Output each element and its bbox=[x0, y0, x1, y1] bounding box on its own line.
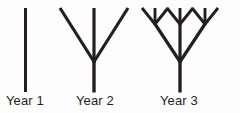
stage-labels-row: Year 1 Year 2 Year 3 bbox=[0, 93, 240, 113]
year-3-branch-left bbox=[155, 24, 181, 63]
year-3-tree bbox=[142, 8, 218, 93]
year-3-twig-center-a bbox=[167, 8, 180, 25]
year-3-branch-right bbox=[180, 24, 206, 63]
year-3-twig-right-c bbox=[205, 8, 218, 25]
year-3-twig-center-c bbox=[180, 8, 193, 25]
tree-growth-diagram: Year 1 Year 2 Year 3 bbox=[0, 0, 240, 113]
year-3-twig-right-a bbox=[192, 8, 205, 25]
stage-label-year-2: Year 2 bbox=[76, 93, 114, 108]
year-2-tree bbox=[60, 8, 128, 93]
stage-label-year-3: Year 3 bbox=[160, 93, 198, 108]
stage-label-year-1: Year 1 bbox=[6, 93, 44, 108]
year-3-twig-left-c bbox=[155, 8, 168, 25]
year-3-twig-left-a bbox=[142, 8, 155, 25]
year-2-branch-right bbox=[94, 8, 129, 63]
year-2-branch-left bbox=[60, 8, 95, 63]
